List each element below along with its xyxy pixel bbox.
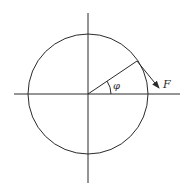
force-arrow	[137, 61, 159, 88]
circle-force-diagram: φ F	[0, 0, 187, 190]
angle-label: φ	[113, 80, 120, 91]
angle-arc	[107, 81, 111, 94]
force-label: F	[162, 78, 171, 91]
